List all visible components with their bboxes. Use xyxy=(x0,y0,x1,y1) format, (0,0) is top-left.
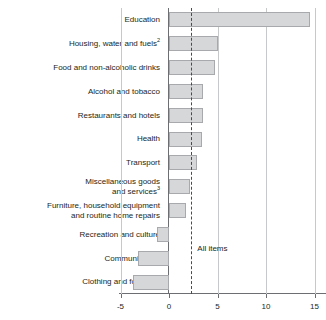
bar xyxy=(169,108,203,123)
gridline xyxy=(121,8,122,294)
bar xyxy=(157,227,169,242)
plot-area: -5051015 All items xyxy=(169,8,326,294)
gridline xyxy=(315,8,316,294)
category-label: Housing, water and fuels2 xyxy=(0,39,160,49)
all-items-reference-line xyxy=(191,8,192,294)
category-label: Education xyxy=(0,15,160,25)
x-axis-line xyxy=(119,293,326,294)
x-axis-tick-label: -5 xyxy=(106,302,136,311)
category-label: Transport xyxy=(0,158,160,168)
bar xyxy=(138,251,169,266)
category-label: Food and non-alcoholic drinks xyxy=(0,63,160,73)
category-label-line: Furniture, household equipment xyxy=(0,201,160,211)
x-axis-tick-mark xyxy=(169,294,170,298)
x-axis-tick-label: 15 xyxy=(300,302,326,311)
bar xyxy=(169,203,186,218)
x-axis-tick-mark xyxy=(218,294,219,298)
x-axis-tick-mark xyxy=(121,294,122,298)
category-label-line: and routine home repairs xyxy=(0,211,160,221)
category-label-line: and services3 xyxy=(0,187,160,197)
category-label: Health xyxy=(0,134,160,144)
bar xyxy=(169,179,190,194)
bar xyxy=(169,36,218,51)
bar xyxy=(169,155,197,170)
x-axis-tick-mark xyxy=(315,294,316,298)
x-axis-tick-mark xyxy=(266,294,267,298)
gridline xyxy=(266,8,267,294)
bar-chart: EducationHousing, water and fuels2Food a… xyxy=(0,0,326,320)
category-label: Communication xyxy=(0,254,160,264)
category-label-line: Miscellaneous goods xyxy=(0,177,160,187)
footnote-marker: 2 xyxy=(157,37,160,43)
category-label: Miscellaneous goodsand services3 xyxy=(0,177,160,196)
bar xyxy=(169,84,203,99)
category-label: Alcohol and tobacco xyxy=(0,87,160,97)
all-items-label: All items xyxy=(197,244,227,253)
category-label: Furniture, household equipmentand routin… xyxy=(0,201,160,220)
x-axis-tick-label: 0 xyxy=(154,302,184,311)
x-axis-tick-label: 5 xyxy=(203,302,233,311)
bar xyxy=(133,275,169,290)
category-label: Recreation and culture xyxy=(0,230,160,240)
category-label: Restaurants and hotels xyxy=(0,111,160,121)
x-axis-tick-label: 10 xyxy=(251,302,281,311)
bar xyxy=(169,132,202,147)
bar xyxy=(169,12,310,27)
footnote-marker: 3 xyxy=(157,185,160,191)
